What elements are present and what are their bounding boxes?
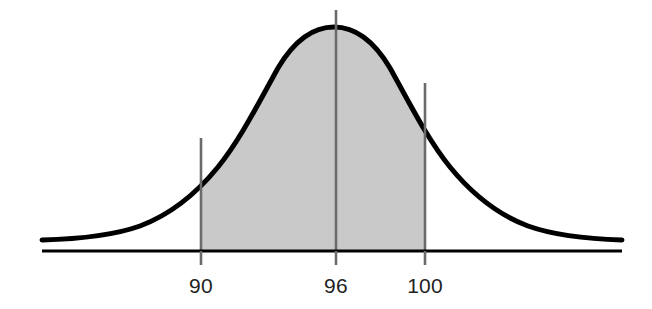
tick-label-100: 100 [407, 274, 443, 297]
tick-label-90: 90 [189, 274, 213, 297]
tick-label-96: 96 [324, 274, 348, 297]
normal-curve-chart: 90 96 100 [0, 0, 652, 309]
shaded-area-90-to-100 [42, 27, 622, 251]
chart-figure: 90 96 100 [0, 0, 652, 309]
